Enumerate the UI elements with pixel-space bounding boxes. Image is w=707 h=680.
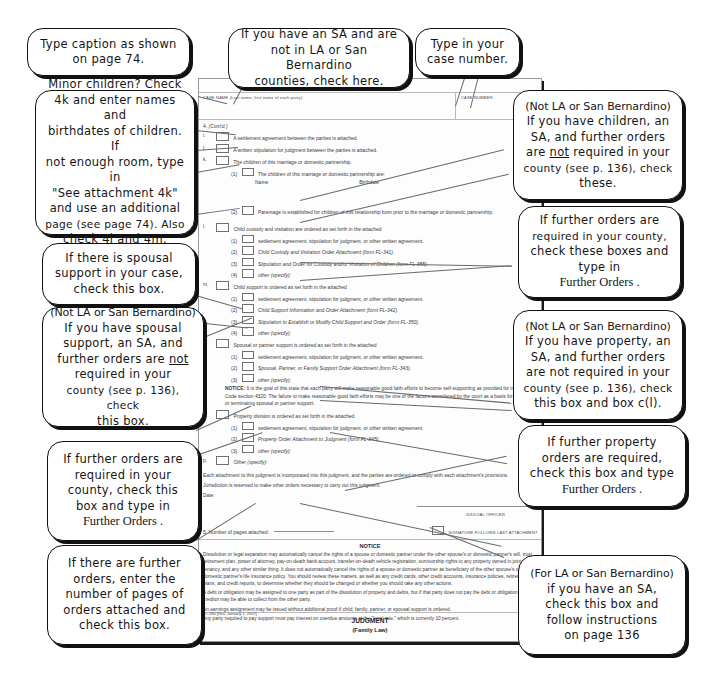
callout-line: on page 136 [526, 628, 678, 644]
sub-text: settlement agreement, stipulation for ju… [258, 295, 424, 301]
callout-line: case number. [423, 52, 512, 68]
checkbox-p[interactable] [216, 456, 229, 465]
sub-text: Spousal, Partner, or Family Support Orde… [258, 365, 411, 371]
sub-number: (3) [231, 376, 237, 382]
sub-number: (1) [231, 353, 237, 359]
checkbox-l[interactable] [216, 223, 229, 232]
callout-line: this box. [50, 414, 196, 430]
callout-line: If you have children, an [521, 114, 675, 130]
callout-line: type in [526, 260, 673, 276]
minor-children-callout[interactable]: Minor children? Check 4k and enter names… [35, 90, 195, 235]
checkbox-l3[interactable] [242, 258, 254, 267]
pages-attached-input[interactable] [274, 531, 334, 532]
checkbox-m[interactable] [216, 281, 229, 290]
callout-line-with-underline: further orders are not [50, 352, 196, 368]
item-letter: i. [203, 132, 205, 140]
checkbox-n1[interactable] [242, 351, 254, 360]
checkbox-k2[interactable] [242, 206, 254, 215]
item-heading: Child custody and visitation are ordered… [233, 226, 381, 232]
property-not-la-callout[interactable]: (Not LA or San Bernardino) If you have p… [513, 310, 683, 420]
checkbox-n3[interactable] [242, 374, 254, 383]
sub-text: settlement agreement, stipulation for ju… [258, 424, 424, 430]
form-item-o: o. Property division is ordered as set f… [199, 410, 541, 421]
k1-write-in-space[interactable] [199, 188, 541, 206]
children-not-la-callout[interactable]: (Not LA or San Bernardino) If you have c… [513, 90, 683, 200]
callout-line: required in your [50, 367, 196, 383]
for-la-callout[interactable]: (For LA or San Bernardino) if you have a… [518, 555, 686, 655]
callout-line: If there is spousal [50, 251, 188, 267]
sub-text: other (specify): [258, 272, 291, 278]
callout-serif-line: Further Orders . [526, 482, 678, 498]
callout-header: (Not LA or San Bernardino) [50, 305, 196, 321]
item-letter: l. [203, 223, 205, 231]
judgment-subtitle: (Family Law) [199, 625, 541, 635]
item-heading: Child support is ordered as set forth in… [233, 284, 346, 290]
form-item-m1: (1) settlement agreement, stipulation fo… [199, 293, 541, 303]
checkbox-o3[interactable] [242, 445, 254, 454]
judicial-officer-label: JUDICIAL OFFICER [465, 512, 505, 517]
item-letter: m. [203, 281, 208, 289]
checkbox-l1[interactable] [242, 235, 254, 244]
callout-line: county (see p. 136), check [521, 161, 675, 177]
section-number: 4. [203, 123, 207, 129]
form-revision-label: FL-180 [Rev. January 1, 2007] [203, 611, 257, 616]
form-item-k: k. The children of this marriage or dome… [199, 156, 541, 167]
checkbox-l4[interactable] [242, 269, 254, 278]
form-item-k2: (2) Parentage is established for childre… [199, 206, 541, 216]
case-name-label: CASE NAME (Last name, first name of each… [203, 95, 303, 100]
callout-line: Type in your [423, 37, 512, 53]
callout-line: support, an SA, and [50, 336, 196, 352]
callout-line: follow instructions [526, 613, 678, 629]
emphasis-not: not [169, 352, 189, 366]
checkbox-k[interactable] [216, 156, 229, 165]
date-label[interactable]: Date: [199, 492, 541, 499]
form-footer: FL-180 [Rev. January 1, 2007] JUDGMENT (… [199, 609, 541, 635]
pages-attached-row: 5. Number of pages attached: SIGNATURE F… [199, 526, 541, 536]
checkbox-o1[interactable] [242, 422, 254, 431]
callout-line: if you have an SA, [526, 582, 678, 598]
annotated-form-page: FL-180 CASE NAME (Last name, first name … [0, 0, 707, 680]
case-header-row: CASE NAME (Last name, first name of each… [199, 92, 541, 120]
type-caption-callout[interactable]: Type caption as shown on page 74. [27, 28, 190, 76]
callout-serif-line: Further Orders . [526, 275, 673, 291]
item-text: Other (specify): [233, 459, 267, 465]
spousal-support-callout[interactable]: If there is spousal support in your case… [42, 243, 196, 305]
callout-line-with-underline: are not required in your [521, 145, 675, 161]
sub-text: Stipulation to Establish or Modify Child… [258, 318, 419, 324]
form-item-m4: (4) other (specify): [199, 327, 541, 337]
sub-text: other (specify): [258, 447, 291, 453]
checkbox-n[interactable] [216, 339, 229, 348]
form-item-l2: (2) Child Custody and Visitation Order A… [199, 246, 541, 256]
callout-line: Minor children? Check [43, 77, 187, 93]
callout-line: If further orders are [526, 213, 673, 229]
sub-number: (2) [231, 365, 237, 371]
callout-line: box and type in [55, 499, 191, 515]
form-item-m2: (2) Child Support Information and Order … [199, 304, 541, 314]
further-property-orders-callout[interactable]: If further property orders are required,… [518, 425, 686, 507]
case-number-callout[interactable]: Type in your case number. [415, 28, 520, 76]
callout-line: If you have spousal [50, 321, 196, 337]
further-orders-left-callout[interactable]: If further orders are required in your c… [47, 441, 199, 541]
callout-line: county (see p. 136), check [50, 383, 196, 414]
callout-line: orders are required, [526, 451, 678, 467]
form-item-n1: (1) settlement agreement, stipulation fo… [199, 351, 541, 361]
form-item-m: m. Child support is ordered as set forth… [199, 281, 541, 292]
checkbox-l2[interactable] [242, 246, 254, 255]
checkbox-m1[interactable] [242, 293, 254, 302]
pages-of-orders-callout[interactable]: If there are further orders, enter the n… [47, 545, 202, 645]
further-orders-right-callout[interactable]: If further orders are required in your c… [518, 206, 681, 298]
notice-paragraph-1: Dissolution or legal separation may auto… [199, 551, 541, 587]
column-header-name: Name [255, 179, 268, 185]
callout-header: (Not LA or San Bernardino) [521, 99, 675, 115]
notice-label: NOTICE: [225, 386, 245, 391]
callout-line: check this box and [526, 597, 678, 613]
spousal-not-la-callout[interactable]: (Not LA or San Bernardino) If you have s… [42, 307, 204, 427]
callout-line: If you have an SA and are [236, 27, 402, 43]
checkbox-m2[interactable] [242, 304, 254, 313]
sa-not-la-callout[interactable]: If you have an SA and are not in LA or S… [228, 28, 410, 88]
form-item-l1: (1) settlement agreement, stipulation fo… [199, 235, 541, 245]
checkbox-n2[interactable] [242, 362, 254, 371]
sub-number: (1) [231, 237, 237, 243]
checkbox-k1[interactable] [242, 168, 254, 177]
callout-line: If further property [526, 435, 678, 451]
